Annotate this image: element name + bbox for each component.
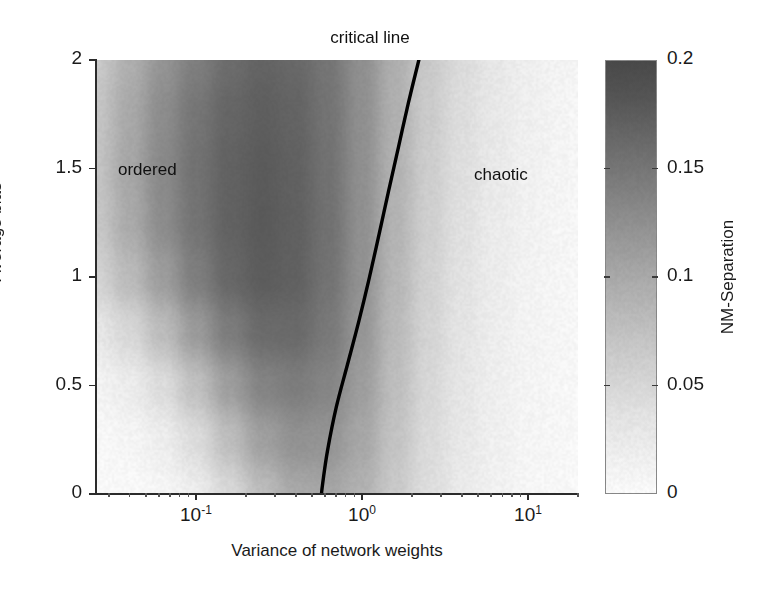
x-tick-mark-minor	[490, 493, 491, 497]
x-tick-label-0: 10-1	[180, 503, 212, 526]
x-tick-label-1: 100	[348, 503, 376, 526]
x-tick-mark-minor	[311, 493, 312, 497]
y-tick-label-0: 0	[0, 481, 82, 503]
x-tick-mark-minor	[345, 493, 346, 497]
x-tick-mark-minor	[461, 493, 462, 497]
x-tick-mark-minor	[440, 493, 441, 497]
y-tick-mark	[89, 493, 96, 495]
x-tick-mark-minor	[108, 493, 109, 497]
x-tick-mark-minor	[477, 493, 478, 497]
x-tick-mark-minor	[502, 493, 503, 497]
y-tick-mark	[89, 59, 96, 61]
colorbar-tick-label-1: 0.05	[667, 373, 704, 395]
x-tick-mantissa: 10	[514, 504, 535, 525]
y-tick-label-4: 2	[0, 47, 82, 69]
x-tick-mark-major	[361, 493, 363, 500]
annotation-chaotic: chaotic	[474, 165, 528, 185]
x-tick-mark-minor	[324, 493, 325, 497]
x-tick-mark-minor	[354, 493, 355, 497]
colorbar-tick-mark-left	[604, 276, 610, 278]
colorbar-tick-label-3: 0.15	[667, 156, 704, 178]
x-tick-mantissa: 10	[180, 504, 201, 525]
x-tick-mark-minor	[511, 493, 512, 497]
x-tick-mark-minor	[520, 493, 521, 497]
figure-root: 00.511.52 10-1100101 Average bias Varian…	[0, 0, 765, 589]
y-tick-mark	[89, 276, 96, 278]
colorbar-tick-label-4: 0.2	[667, 47, 693, 69]
annotation-critical-line: critical line	[330, 28, 409, 48]
colorbar-tick-mark-right	[652, 168, 658, 170]
x-tick-mark-major	[195, 493, 197, 500]
colorbar-gradient	[605, 60, 657, 494]
x-tick-mark-minor	[245, 493, 246, 497]
y-axis-title: Average bias	[0, 183, 6, 282]
colorbar-tick-mark-right	[652, 385, 658, 387]
colorbar-title: NM-Separation	[718, 220, 738, 334]
annotation-ordered: ordered	[118, 160, 177, 180]
x-tick-mark-minor	[295, 493, 296, 497]
x-tick-label-2: 101	[514, 503, 542, 526]
heatmap-image	[96, 60, 578, 494]
x-axis-line	[95, 493, 579, 495]
x-tick-mark-major	[527, 493, 529, 500]
x-tick-mark-minor	[577, 493, 578, 497]
x-tick-exponent: -1	[201, 503, 212, 517]
colorbar: 00.050.10.150.2	[605, 60, 657, 494]
colorbar-tick-mark-right	[652, 276, 658, 278]
colorbar-tick-mark-left	[604, 168, 610, 170]
x-tick-mark-minor	[188, 493, 189, 497]
colorbar-tick-label-2: 0.1	[667, 264, 693, 286]
x-tick-exponent: 1	[535, 503, 542, 517]
colorbar-tick-mark-left	[604, 385, 610, 387]
x-tick-mark-minor	[274, 493, 275, 497]
y-tick-mark	[89, 385, 96, 387]
x-tick-mark-minor	[129, 493, 130, 497]
x-tick-mark-minor	[145, 493, 146, 497]
y-tick-mark	[89, 168, 96, 170]
x-tick-mark-minor	[179, 493, 180, 497]
colorbar-tick-label-0: 0	[667, 481, 678, 503]
x-axis-title: Variance of network weights	[231, 541, 442, 561]
x-tick-mark-minor	[169, 493, 170, 497]
x-tick-mark-minor	[335, 493, 336, 497]
x-tick-exponent: 0	[369, 503, 376, 517]
x-tick-mantissa: 10	[348, 504, 369, 525]
y-tick-label-1: 0.5	[0, 373, 82, 395]
x-tick-mark-minor	[411, 493, 412, 497]
heatmap-plot-area	[96, 60, 578, 494]
y-tick-label-3: 1.5	[0, 156, 82, 178]
x-tick-mark-minor	[158, 493, 159, 497]
y-tick-label-2: 1	[0, 264, 82, 286]
